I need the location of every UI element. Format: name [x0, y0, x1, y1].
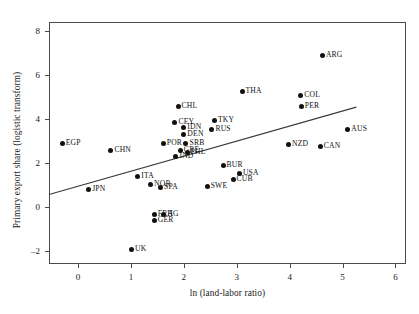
data-point-label: POR: [167, 139, 182, 147]
x-tick-mark: [78, 264, 79, 268]
data-point-label: RUS: [215, 125, 230, 133]
data-point: [129, 247, 134, 252]
data-point-label: SWE: [211, 182, 228, 190]
scatter-plot-figure: Primary export share (logistic transform…: [0, 0, 419, 314]
y-tick-label: –2: [14, 247, 40, 256]
y-tick-label: 8: [14, 27, 40, 36]
data-point-label: COL: [304, 91, 320, 99]
data-point: [212, 118, 217, 123]
data-point-label: PER: [305, 102, 320, 110]
data-point: [205, 184, 210, 189]
data-point: [148, 182, 153, 187]
x-tick-mark: [395, 264, 396, 268]
x-tick-label: 4: [278, 273, 302, 282]
x-tick-mark: [237, 264, 238, 268]
data-point-label: TKY: [218, 116, 234, 124]
x-tick-label: 1: [119, 273, 143, 282]
data-point-label: AUS: [351, 125, 367, 133]
data-point-label: CHN: [114, 146, 131, 154]
data-point-label: IND: [179, 152, 193, 160]
data-point: [320, 53, 325, 58]
data-point: [299, 104, 304, 109]
data-point: [161, 141, 166, 146]
data-point-label: EGP: [66, 139, 81, 147]
data-point-label: BUR: [227, 161, 243, 169]
data-point-label: JPN: [92, 185, 105, 193]
data-point: [221, 163, 226, 168]
data-point-label: THA: [246, 87, 262, 95]
data-point: [298, 93, 303, 98]
data-point: [318, 144, 323, 149]
y-tick-label: 6: [14, 71, 40, 80]
x-tick-label: 5: [331, 273, 355, 282]
data-point: [152, 218, 157, 223]
x-tick-mark: [131, 264, 132, 268]
x-tick-mark: [184, 264, 185, 268]
data-point-layer: EGPCHNJPNITANORSPAUKFRAHGGERPORCEYCHLIDN…: [49, 22, 406, 264]
data-point-label: DEN: [187, 130, 203, 138]
x-tick-mark: [290, 264, 291, 268]
y-tick-label: 0: [14, 203, 40, 212]
y-tick-label: 2: [14, 159, 40, 168]
data-point-label: CHL: [182, 102, 198, 110]
data-point-label: UK: [135, 245, 146, 253]
data-point: [152, 212, 157, 217]
data-point: [60, 141, 65, 146]
data-point-label: ITA: [141, 172, 154, 180]
data-point: [231, 177, 236, 182]
data-point-label: ARG: [326, 51, 343, 59]
data-point-label: CAN: [324, 142, 341, 150]
x-tick-label: 3: [225, 273, 249, 282]
regression-line: [49, 22, 406, 264]
data-point-label: SPA: [164, 183, 178, 191]
x-axis-label: ln (land-labor ratio): [49, 288, 406, 298]
data-point-label: GER: [158, 216, 174, 224]
x-tick-mark: [343, 264, 344, 268]
x-tick-label: 6: [383, 273, 407, 282]
y-tick-label: 4: [14, 115, 40, 124]
data-point-label: CUB: [237, 175, 253, 183]
data-point-label: NZD: [292, 140, 308, 148]
x-tick-label: 2: [172, 273, 196, 282]
x-tick-label: 0: [66, 273, 90, 282]
data-point: [176, 104, 181, 109]
